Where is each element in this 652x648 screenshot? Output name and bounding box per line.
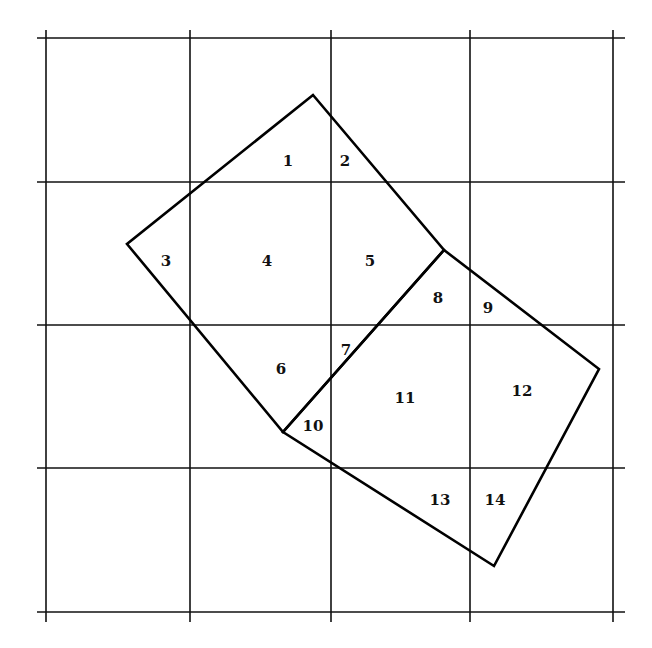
region-labels: 1234589761112101314 — [161, 152, 533, 509]
region-label-8: 8 — [433, 289, 443, 307]
region-label-11: 11 — [395, 389, 416, 407]
region-label-4: 4 — [262, 252, 272, 270]
region-label-1: 1 — [283, 152, 293, 170]
region-label-10: 10 — [303, 417, 324, 435]
diagram-canvas: 1234589761112101314 — [0, 0, 652, 648]
region-label-14: 14 — [485, 491, 506, 509]
region-label-3: 3 — [161, 252, 171, 270]
square-outlines — [127, 95, 599, 566]
region-label-2: 2 — [340, 152, 350, 170]
region-label-9: 9 — [483, 299, 493, 317]
region-label-6: 6 — [276, 360, 286, 378]
dissection-diagram: 1234589761112101314 — [0, 0, 652, 648]
region-label-5: 5 — [365, 252, 375, 270]
region-label-13: 13 — [430, 491, 451, 509]
small-square-outline — [127, 95, 444, 432]
region-label-12: 12 — [512, 382, 533, 400]
region-label-7: 7 — [341, 341, 351, 359]
grid-lines — [37, 30, 625, 622]
